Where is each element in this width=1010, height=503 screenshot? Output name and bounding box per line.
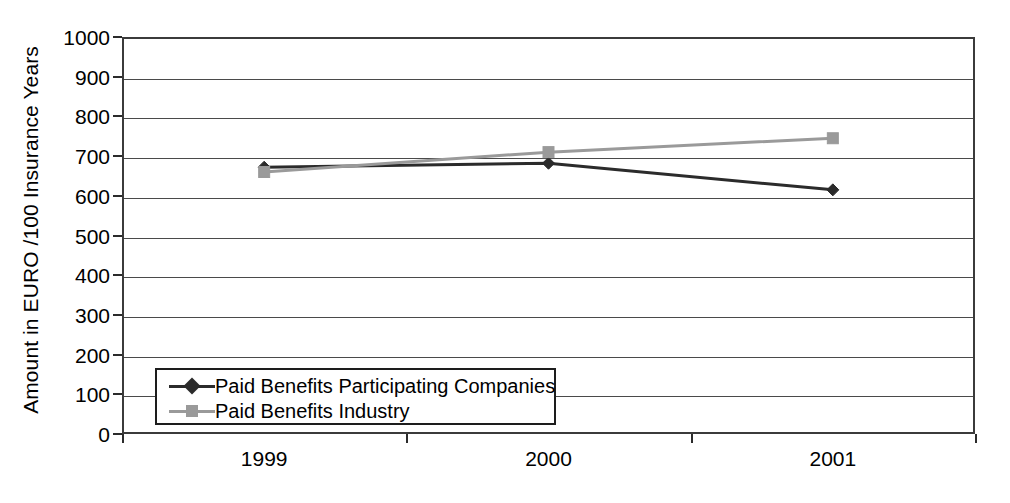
y-tick-label: 700 bbox=[48, 146, 110, 167]
line-chart: Amount in EURO /100 Insurance Years 0100… bbox=[0, 0, 1010, 503]
y-tick-label: 900 bbox=[48, 66, 110, 87]
y-tickmark bbox=[113, 235, 122, 237]
y-tickmark bbox=[113, 195, 122, 197]
x-tick-label: 2000 bbox=[525, 448, 572, 469]
x-tick-label: 1999 bbox=[241, 448, 288, 469]
y-tick-label: 800 bbox=[48, 106, 110, 127]
y-tick-label: 600 bbox=[48, 185, 110, 206]
gridline bbox=[124, 79, 973, 80]
y-tickmark bbox=[113, 433, 122, 435]
y-tickmark bbox=[113, 314, 122, 316]
y-tick-label: 1000 bbox=[48, 27, 110, 48]
legend-key-square-icon bbox=[169, 401, 215, 421]
gridline bbox=[124, 238, 973, 239]
x-tickmark bbox=[122, 434, 124, 443]
y-tick-label: 500 bbox=[48, 225, 110, 246]
y-tickmark bbox=[113, 274, 122, 276]
x-tickmark bbox=[406, 434, 408, 443]
x-tick-label: 2001 bbox=[809, 448, 856, 469]
gridline bbox=[124, 118, 973, 119]
y-axis-title: Amount in EURO /100 Insurance Years bbox=[14, 0, 48, 460]
y-tickmark bbox=[113, 354, 122, 356]
chart-legend: Paid Benefits Participating Companies Pa… bbox=[155, 368, 556, 425]
gridline bbox=[124, 357, 973, 358]
legend-item-industry: Paid Benefits Industry bbox=[169, 398, 554, 423]
x-tickmark bbox=[975, 434, 977, 443]
y-tickmark bbox=[113, 76, 122, 78]
y-tick-label: 100 bbox=[48, 384, 110, 405]
y-tickmark bbox=[113, 393, 122, 395]
y-tickmark bbox=[113, 115, 122, 117]
gridline bbox=[124, 317, 973, 318]
gridline bbox=[124, 277, 973, 278]
y-tick-label: 300 bbox=[48, 304, 110, 325]
y-tick-label: 400 bbox=[48, 265, 110, 286]
legend-key-diamond-icon bbox=[169, 376, 215, 396]
y-tick-label: 200 bbox=[48, 344, 110, 365]
legend-item-participating-companies: Paid Benefits Participating Companies bbox=[169, 373, 554, 398]
y-axis-tick-labels: 01002003004005006007008009001000 bbox=[46, 0, 110, 503]
gridline bbox=[124, 158, 973, 159]
x-tickmark bbox=[691, 434, 693, 443]
y-tick-label: 0 bbox=[48, 424, 110, 445]
y-tickmark bbox=[113, 155, 122, 157]
legend-label-participating-companies: Paid Benefits Participating Companies bbox=[215, 376, 555, 396]
y-tickmark bbox=[113, 36, 122, 38]
legend-label-industry: Paid Benefits Industry bbox=[215, 401, 410, 421]
gridline bbox=[124, 198, 973, 199]
